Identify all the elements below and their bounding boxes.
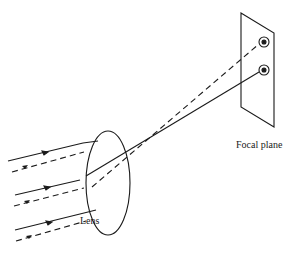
dashed-ray-bundle — [12, 44, 259, 241]
focal-plane-label: Focal plane — [236, 139, 282, 150]
focal-spot-top — [259, 37, 269, 47]
focal-spot-bottom — [259, 65, 269, 75]
lens-focusing-diagram — [0, 0, 294, 256]
lens-label: Lens — [80, 215, 99, 226]
